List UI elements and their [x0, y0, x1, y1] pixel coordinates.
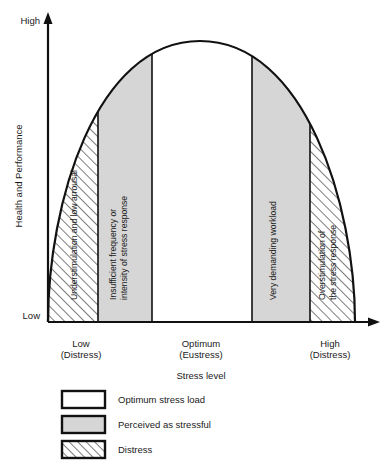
band-label-insufficient-stress-response: Insufficient frequency or intensity of s…: [108, 196, 129, 300]
band-very-demanding-workload-fill: [252, 35, 310, 325]
x-tick-high-line1: High: [320, 338, 340, 349]
legend-item-perceived-as-stressful: Perceived as stressful: [62, 416, 211, 433]
legend-swatch-gray: [62, 416, 105, 433]
band-label-insufficient-line2: intensity of stress response: [119, 196, 129, 300]
legend-item-distress: Distress: [62, 441, 153, 458]
y-axis-arrow-icon: [44, 12, 53, 24]
y-axis-low-label: Low: [23, 310, 41, 321]
legend-swatch-hatched: [62, 441, 105, 458]
legend-label-distress: Distress: [118, 444, 153, 455]
stress-performance-diagram: High Low Health and Performance Understi…: [0, 0, 389, 468]
band-label-understimulation: Understimulation and low arrousal: [69, 170, 79, 300]
y-axis-high-label: High: [20, 15, 40, 26]
x-axis-tick-optimum: Optimum (Eustress): [179, 338, 222, 360]
legend-swatch-white: [62, 391, 105, 408]
legend-item-optimum-stress-load: Optimum stress load: [62, 391, 205, 408]
y-axis-title: Health and Performance: [13, 125, 24, 228]
legend-label-perceived-as-stressful: Perceived as stressful: [118, 419, 211, 430]
x-axis-tick-high: High (Distress): [310, 338, 351, 360]
band-label-insufficient-line1: Insufficient frequency or: [108, 209, 118, 300]
band-label-overstimulation-line2: the stress response: [328, 225, 338, 300]
x-tick-high-line2: (Distress): [310, 349, 351, 360]
x-tick-low-line1: Low: [72, 338, 90, 349]
x-axis-tick-low: Low (Distress): [61, 338, 102, 360]
legend: Optimum stress load Perceived as stressf…: [62, 391, 211, 458]
band-label-very-demanding-workload: Very demanding workload: [268, 201, 278, 300]
band-label-overstimulation-line1: Overstimulation of: [317, 230, 327, 300]
band-optimum-stress-load-fill: [152, 35, 252, 325]
band-label-overstimulation: Overstimulation of the stress response: [317, 225, 338, 300]
x-tick-optimum-line1: Optimum: [182, 338, 221, 349]
legend-label-optimum-stress-load: Optimum stress load: [118, 394, 205, 405]
x-tick-optimum-line2: (Eustress): [179, 349, 222, 360]
x-tick-low-line2: (Distress): [61, 349, 102, 360]
x-axis-arrow-icon: [368, 318, 380, 327]
x-axis-title: Stress level: [176, 370, 225, 381]
